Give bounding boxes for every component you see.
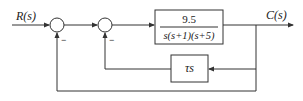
input-label: R(s) bbox=[15, 9, 36, 23]
output-label: C(s) bbox=[266, 8, 287, 22]
plant-numerator: 9.5 bbox=[182, 13, 196, 25]
summing-junction-1 bbox=[50, 18, 64, 32]
summing-junction-2 bbox=[98, 18, 112, 32]
feedback-block-label: τs bbox=[185, 61, 194, 75]
diagram-canvas: R(s) − − 9.5 s(s+1)(s+5) C(s) τs bbox=[0, 0, 303, 101]
plant-denominator: s(s+1)(s+5) bbox=[164, 30, 215, 42]
sum2-minus-sign: − bbox=[109, 35, 114, 45]
block-diagram: R(s) − − 9.5 s(s+1)(s+5) C(s) τs bbox=[0, 0, 303, 101]
sum1-minus-sign: − bbox=[61, 35, 66, 45]
